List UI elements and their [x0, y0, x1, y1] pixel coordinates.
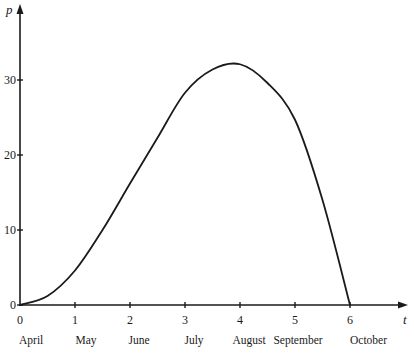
y-tick-label: 0 [10, 298, 16, 312]
y-tick-label: 20 [4, 148, 16, 162]
x-tick-label: 5 [292, 313, 298, 327]
y-axis-arrow-icon [17, 4, 24, 14]
month-label: October [350, 334, 387, 346]
x-tick-label: 3 [182, 313, 188, 327]
x-tick-label: 0 [17, 313, 23, 327]
y-axis-label: p [5, 2, 13, 17]
month-label: April [19, 334, 43, 347]
data-line [20, 63, 350, 305]
x-tick-label: 4 [237, 313, 243, 327]
chart: p t 0102030 0123456 AprilMayJuneJulyAugu… [0, 0, 414, 356]
month-label: September [273, 334, 322, 347]
x-axis-arrow-icon [398, 302, 408, 309]
month-label: June [128, 334, 149, 346]
month-label: May [75, 334, 96, 347]
x-tick-label: 6 [347, 313, 353, 327]
x-tick-label: 2 [127, 313, 133, 327]
y-tick-label: 30 [4, 73, 16, 87]
x-tick-label: 1 [72, 313, 78, 327]
month-labels: AprilMayJuneJulyAugustSeptemberOctober [19, 334, 387, 347]
x-axis-label: t [403, 312, 407, 327]
y-tick-label: 10 [4, 223, 16, 237]
month-label: July [184, 334, 203, 347]
month-label: August [232, 334, 266, 347]
